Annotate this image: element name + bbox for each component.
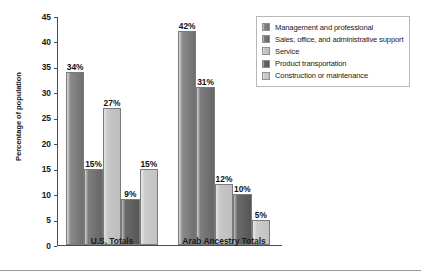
bar-value-label: 34% [67, 62, 84, 72]
legend-item-label: Construction or maintenance [275, 71, 368, 80]
bar-value-label: 5% [255, 210, 267, 220]
y-axis-tick-mark [54, 144, 57, 145]
plot-area: 454035302520151050 34%15%27%9%15%42%31%1… [57, 17, 281, 246]
bar: 42% [178, 31, 196, 245]
y-axis-tick-mark [54, 42, 57, 43]
legend-swatch-icon [262, 35, 270, 43]
y-axis-tick-mark [54, 170, 57, 171]
legend-swatch-icon [262, 60, 270, 68]
bar: 34% [66, 72, 84, 245]
legend-swatch-icon [262, 47, 270, 55]
bar-chart-figure: Percentage of population 454035302520151… [0, 0, 421, 280]
y-axis-tick-label: 30 [42, 88, 51, 98]
y-axis-tick-mark [54, 221, 57, 222]
legend-item: Service [262, 45, 403, 57]
y-axis-tick-mark [54, 195, 57, 196]
bar-value-label: 9% [124, 189, 136, 199]
bar-value-label: 15% [85, 159, 102, 169]
bar: 27% [103, 108, 121, 245]
bar-value-label: 27% [104, 98, 121, 108]
legend-item: Sales, office, and administrative suppor… [262, 33, 403, 45]
legend-swatch-icon [262, 23, 270, 31]
y-axis-tick-label: 10 [42, 190, 51, 200]
legend-item-label: Sales, office, and administrative suppor… [275, 35, 403, 44]
bar: 31% [196, 87, 214, 245]
bottom-divider [0, 270, 421, 271]
bar-value-label: 42% [179, 21, 196, 31]
x-axis-category-label: Arab Ancestry Totals [178, 236, 270, 246]
legend-item: Construction or maintenance [262, 70, 403, 82]
legend-swatch-icon [262, 72, 270, 80]
legend-item-label: Service [275, 47, 299, 56]
legend-item: Management and professional [262, 21, 403, 33]
x-axis-category-label: U.S. Totals [66, 236, 158, 246]
bars-layer: 34%15%27%9%15%42%31%12%10%5% [58, 17, 282, 246]
chart-legend: Management and professionalSales, office… [256, 16, 410, 87]
bar: 15% [84, 169, 102, 245]
bar: 15% [140, 169, 158, 245]
y-axis-tick-label: 40 [42, 37, 51, 47]
y-axis-tick-mark [54, 119, 57, 120]
y-axis-title: Percentage of population [14, 37, 23, 197]
bar-value-label: 10% [234, 184, 251, 194]
y-axis-tick-mark [54, 246, 57, 247]
legend-item-label: Management and professional [275, 23, 373, 32]
legend-item: Product transportation [262, 58, 403, 70]
y-axis-tick-label: 35 [42, 62, 51, 72]
y-axis-tick-label: 25 [42, 113, 51, 123]
legend-item-label: Product transportation [275, 59, 346, 68]
y-axis-tick-label: 20 [42, 139, 51, 149]
y-axis-tick-mark [54, 68, 57, 69]
y-axis-tick-mark [54, 17, 57, 18]
bar-value-label: 15% [140, 159, 157, 169]
y-axis-tick-label: 5 [46, 215, 51, 225]
y-axis-tick-label: 15 [42, 164, 51, 174]
bar-value-label: 31% [197, 77, 214, 87]
y-axis-tick-mark [54, 93, 57, 94]
bar-value-label: 12% [216, 174, 233, 184]
y-axis-tick-label: 45 [42, 12, 51, 22]
y-axis-tick-label: 0 [46, 241, 51, 251]
